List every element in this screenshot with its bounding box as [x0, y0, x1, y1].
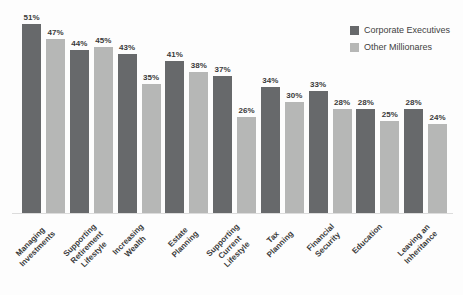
- value-label: 35%: [143, 73, 159, 82]
- bar-unit: 45%: [94, 36, 113, 214]
- legend-item-other-millionares: Other Millionares: [350, 42, 450, 52]
- bar-group: 33%28%Financial Security: [309, 13, 352, 213]
- bar-unit: 30%: [285, 91, 304, 213]
- bar-group: 37%26%Supporting Current Lifestyle: [213, 13, 256, 213]
- bar-other-millionares: [285, 102, 304, 213]
- bar-unit: 28%: [356, 98, 375, 213]
- bar-unit: 24%: [428, 113, 447, 213]
- category-label: Managing Investments: [10, 222, 57, 269]
- legend-label-corporate-executives: Corporate Executives: [364, 25, 450, 35]
- value-label: 34%: [262, 76, 278, 85]
- bar-unit: 34%: [261, 76, 280, 213]
- bar-unit: 37%: [213, 65, 232, 213]
- value-label: 28%: [334, 98, 350, 107]
- value-label: 44%: [71, 39, 87, 48]
- bar-other-millionares: [94, 47, 113, 214]
- legend-swatch-dark-icon: [350, 26, 359, 35]
- legend-label-other-millionares: Other Millionares: [364, 42, 432, 52]
- bar-unit: 38%: [189, 61, 208, 213]
- category-label: Tax Planning: [258, 222, 296, 260]
- bar-other-millionares: [46, 39, 65, 213]
- value-label: 25%: [382, 110, 398, 119]
- bar-other-millionares: [428, 124, 447, 213]
- value-label: 28%: [358, 98, 374, 107]
- value-label: 28%: [405, 98, 421, 107]
- bar-corporate-executives: [118, 54, 137, 213]
- bar-other-millionares: [142, 84, 161, 214]
- value-label: 47%: [47, 28, 63, 37]
- value-label: 38%: [191, 61, 207, 70]
- bar-unit: 33%: [309, 80, 328, 213]
- value-label: 51%: [23, 13, 39, 22]
- grouped-bar-chart: 51%47%Managing Investments44%45%Supporti…: [0, 0, 463, 295]
- bar-unit: 28%: [404, 98, 423, 213]
- category-label: Supporting Retirement Lifestyle: [61, 222, 112, 273]
- bar-unit: 35%: [142, 73, 161, 214]
- bar-unit: 47%: [46, 28, 65, 213]
- value-label: 37%: [214, 65, 230, 74]
- x-axis-baseline: [12, 213, 453, 214]
- bar-group: 44%45%Supporting Retirement Lifestyle: [70, 13, 113, 213]
- bar-group: 51%47%Managing Investments: [22, 13, 65, 213]
- bar-unit: 26%: [237, 106, 256, 213]
- bar-unit: 28%: [333, 98, 352, 213]
- bar-other-millionares: [333, 109, 352, 213]
- category-label: Increasing Wealth: [111, 222, 153, 264]
- value-label: 45%: [95, 36, 111, 45]
- bar-other-millionares: [380, 121, 399, 214]
- bar-corporate-executives: [404, 109, 423, 213]
- bar-unit: 43%: [118, 43, 137, 213]
- bar-unit: 41%: [165, 50, 184, 213]
- bar-unit: 44%: [70, 39, 89, 213]
- value-label: 43%: [119, 43, 135, 52]
- bar-other-millionares: [237, 117, 256, 213]
- bar-unit: 51%: [22, 13, 41, 213]
- bar-corporate-executives: [309, 91, 328, 213]
- value-label: 33%: [310, 80, 326, 89]
- bar-corporate-executives: [356, 109, 375, 213]
- bar-corporate-executives: [22, 24, 41, 213]
- value-label: 24%: [429, 113, 445, 122]
- bar-group: 41%38%Estate Planning: [165, 13, 208, 213]
- category-label: Financial Security: [305, 222, 344, 261]
- value-label: 30%: [286, 91, 302, 100]
- legend: Corporate Executives Other Millionares: [350, 25, 450, 59]
- category-label: Leaving an Inheritance: [395, 222, 439, 266]
- bar-group: 34%30%Tax Planning: [261, 13, 304, 213]
- bar-unit: 25%: [380, 110, 399, 214]
- bar-corporate-executives: [213, 76, 232, 213]
- legend-item-corporate-executives: Corporate Executives: [350, 25, 450, 35]
- bar-corporate-executives: [70, 50, 89, 213]
- category-label: Estate Planning: [163, 222, 201, 260]
- bar-corporate-executives: [261, 87, 280, 213]
- legend-swatch-light-icon: [350, 43, 359, 52]
- category-label: Supporting Current Lifestyle: [204, 222, 255, 273]
- bar-group: 43%35%Increasing Wealth: [118, 13, 161, 213]
- category-label: Education: [350, 222, 384, 256]
- value-label: 41%: [167, 50, 183, 59]
- value-label: 26%: [238, 106, 254, 115]
- bar-other-millionares: [189, 72, 208, 213]
- bar-corporate-executives: [165, 61, 184, 213]
